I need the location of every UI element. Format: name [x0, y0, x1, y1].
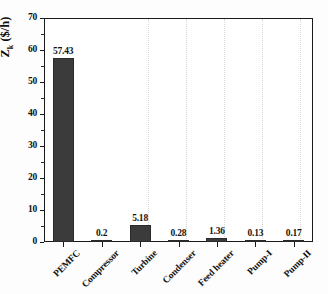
bar-rect — [53, 58, 74, 242]
y-tick-mark — [40, 178, 45, 179]
bar-value-label: 5.18 — [132, 214, 148, 224]
x-tick-mark — [179, 242, 180, 247]
y-tick-minor-mark — [41, 162, 44, 163]
bar-compressor: 0.2 — [91, 18, 112, 242]
y-tick-minor-mark — [41, 194, 44, 195]
y-tick-mark — [40, 82, 45, 83]
y-tick-label: 50 — [28, 77, 37, 87]
bar-value-label: 1.36 — [209, 227, 225, 237]
bar-value-label: 0.13 — [247, 229, 263, 239]
x-tick-mark — [294, 242, 295, 247]
y-tick-label: 30 — [28, 141, 37, 151]
y-tick-minor-mark — [41, 34, 44, 35]
x-tick-mark — [102, 242, 103, 247]
y-tick-label: 20 — [28, 173, 37, 183]
y-tick-minor-mark — [41, 226, 44, 227]
x-axis-label: Condenser — [49, 248, 197, 294]
y-tick-mark — [40, 18, 45, 19]
y-tick-mark — [40, 210, 45, 211]
x-axis-label: PEMFC — [0, 248, 82, 294]
bar-value-label: 57.43 — [53, 47, 73, 57]
x-tick-mark — [255, 242, 256, 247]
bar-turbine: 5.18 — [130, 18, 151, 242]
bar-value-label: 0.28 — [171, 229, 187, 239]
bars-layer: 57.430.25.180.281.360.130.17 — [44, 18, 313, 242]
x-axis-label: Pump-I — [126, 248, 274, 294]
bar-pemfc: 57.43 — [53, 18, 74, 242]
x-axis-label: Turbine — [11, 248, 159, 294]
x-axis-label: Pump-II — [164, 248, 312, 294]
bar-value-label: 0.2 — [96, 229, 107, 239]
y-tick-mark — [40, 146, 45, 147]
y-tick-minor-mark — [41, 98, 44, 99]
y-tick-mark — [40, 50, 45, 51]
x-axis-label: Feed heater — [88, 248, 236, 294]
bar-pump-ii: 0.17 — [283, 18, 304, 242]
y-tick-label: 40 — [28, 109, 37, 119]
y-tick-label: 10 — [28, 205, 37, 215]
y-tick-label: 60 — [28, 45, 37, 55]
bar-chart: 57.430.25.180.281.360.130.17 01020304050… — [0, 0, 328, 294]
y-tick-label: 70 — [28, 13, 37, 23]
y-tick-label: 0 — [32, 237, 37, 247]
x-axis-label: Compressor — [0, 248, 121, 294]
x-tick-mark — [140, 242, 141, 247]
bar-condenser: 0.28 — [168, 18, 189, 242]
bar-pump-i: 0.13 — [245, 18, 266, 242]
x-tick-mark — [217, 242, 218, 247]
y-axis-title: Zk ($/h) — [0, 0, 15, 92]
x-axis — [44, 242, 313, 248]
y-tick-mark — [40, 114, 45, 115]
y-axis-units: ($/h) — [0, 17, 12, 42]
y-tick-minor-mark — [41, 130, 44, 131]
bar-feed-heater: 1.36 — [206, 18, 227, 242]
y-tick-minor-mark — [41, 66, 44, 67]
bar-rect — [130, 225, 151, 242]
x-tick-mark — [63, 242, 64, 247]
bar-value-label: 0.17 — [286, 229, 302, 239]
